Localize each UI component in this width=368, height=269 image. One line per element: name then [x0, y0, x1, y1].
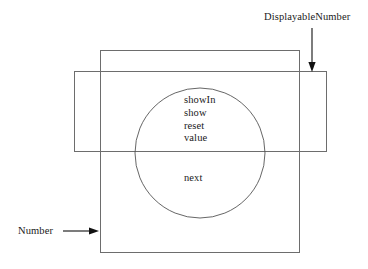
member-item: next — [184, 172, 202, 185]
diagram-canvas: DisplayableNumber Number showIn show res… — [0, 0, 368, 269]
member-item: showIn — [184, 94, 216, 107]
member-item: reset — [184, 120, 216, 133]
number-label: Number — [18, 224, 53, 238]
shared-members-lower-list: next — [184, 172, 202, 185]
member-item: show — [184, 107, 216, 120]
number-arrow — [63, 227, 99, 234]
displayable-number-label: DisplayableNumber — [264, 10, 350, 24]
displayable-number-arrow — [308, 28, 315, 72]
member-item: value — [184, 132, 216, 145]
shared-members-upper-list: showIn show reset value — [184, 94, 216, 145]
